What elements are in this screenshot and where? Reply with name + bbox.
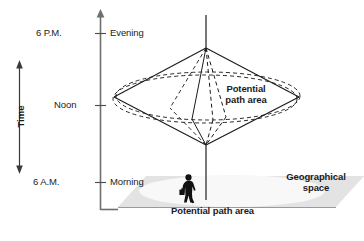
prism-inner-edge-mid-dashed-lower bbox=[206, 120, 213, 145]
prism-inner-edge-right-dashed bbox=[206, 48, 226, 117]
geographical-space-label: Geographical space bbox=[274, 172, 358, 193]
prism-edge-bottom-left bbox=[114, 97, 206, 145]
geographical-space-line2: space bbox=[303, 182, 329, 193]
arrow-up-icon bbox=[16, 60, 23, 69]
prism-inner-edge-mid-dashed bbox=[206, 48, 213, 120]
prism-label-line1: Potential bbox=[226, 83, 265, 94]
tick-label-noon-time: Noon bbox=[54, 100, 76, 111]
prism-inner-edge-right-dashed-lower bbox=[206, 117, 226, 145]
prism-potential-path-area-label: Potential path area bbox=[214, 84, 278, 105]
time-axis-label: Time bbox=[15, 101, 26, 133]
tick-label-6pm-time: 6 P.M. bbox=[36, 28, 62, 39]
prism-label-line2: path area bbox=[225, 94, 266, 105]
arrow-up-icon bbox=[97, 9, 105, 18]
tick-label-6am-time: 6 A.M. bbox=[33, 177, 59, 188]
geographical-space-line1: Geographical bbox=[286, 171, 346, 182]
arrow-down-icon bbox=[16, 166, 23, 175]
prism-inner-edge-left-solid bbox=[192, 48, 206, 119]
ground-potential-path-area-label: Potential path area bbox=[145, 206, 280, 217]
tick-label-6pm-period: Evening bbox=[110, 28, 144, 39]
space-time-prism-diagram: 6 P.M. Evening Noon 6 A.M. Morning Time … bbox=[0, 0, 364, 241]
tick-label-6am-period: Morning bbox=[110, 177, 144, 188]
prism-rib-dashed-b bbox=[170, 108, 206, 145]
